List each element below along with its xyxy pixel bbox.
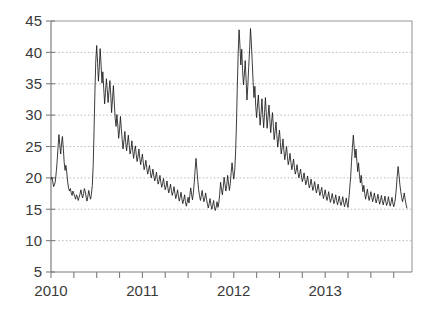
chart-container: 45403530252015105 2010201120122013 — [0, 0, 435, 314]
x-tick-label: 2010 — [34, 282, 67, 299]
x-axis-tick-labels: 2010201120122013 — [34, 282, 342, 299]
plot-frame — [51, 21, 412, 272]
x-tick-label: 2012 — [217, 282, 250, 299]
x-tick-label: 2011 — [126, 282, 158, 299]
line-chart: 45403530252015105 2010201120122013 — [0, 0, 435, 314]
plot-frame-border — [51, 21, 412, 272]
data-series-group — [51, 29, 407, 211]
y-tick-label: 25 — [25, 138, 42, 155]
y-tick-label: 35 — [25, 75, 42, 92]
data-series-line — [51, 29, 407, 211]
y-axis-tick-labels: 45403530252015105 — [25, 12, 42, 280]
y-tick-label: 15 — [25, 201, 42, 218]
y-tick-label: 5 — [34, 263, 42, 280]
x-tick-label: 2013 — [308, 282, 341, 299]
x-axis-ticks — [51, 272, 394, 278]
y-tick-label: 40 — [25, 44, 42, 61]
y-tick-label: 20 — [25, 169, 42, 186]
y-tick-label: 45 — [25, 12, 42, 29]
gridlines — [51, 52, 412, 240]
y-tick-label: 10 — [25, 232, 42, 249]
y-tick-label: 30 — [25, 106, 42, 123]
